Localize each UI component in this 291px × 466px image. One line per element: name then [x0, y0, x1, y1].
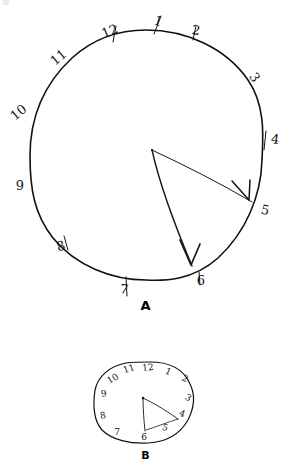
clock-a-numeral-11: 11 [47, 46, 69, 68]
clock-b-hour-hand [143, 398, 145, 431]
clock-b-numeral-2: 2 [180, 373, 190, 385]
clock-b-numeral-1: 1 [164, 366, 173, 377]
clock-b-numeral-7: 7 [114, 427, 120, 437]
clock-b-numeral-6: 6 [141, 432, 147, 442]
clock-a-hour-hand [152, 150, 200, 266]
clock-b-numeral-4: 4 [178, 408, 187, 420]
clock-a-tick-4 [264, 131, 266, 150]
clock-b-numeral-12: 12 [142, 362, 154, 373]
panel-label-b: B [0, 450, 291, 461]
clock-a-numeral-5: 5 [260, 202, 271, 218]
clock-a-numeral-2: 2 [191, 22, 202, 38]
panel-label-a: A [0, 299, 291, 312]
clock-a-minute-hand-arrowhead [232, 180, 250, 200]
clock-b-numeral-11: 11 [122, 362, 136, 375]
clock-a-numeral-6: 6 [197, 273, 205, 288]
clock-b-numeral-10: 10 [105, 371, 120, 386]
clock-figure-canvas: 12 1 2 3 4 5 6 7 8 9 10 11 [0, 0, 291, 466]
clock-a-numeral-9: 9 [16, 178, 24, 193]
clock-b-pivot-dot [142, 397, 144, 399]
clock-b-minute-hand [143, 398, 178, 419]
clock-a-pivot-dot [151, 149, 153, 151]
clock-a-numeral-3: 3 [246, 70, 263, 85]
clock-a-numeral-4: 4 [270, 131, 280, 147]
clock-a-minute-hand [152, 150, 252, 202]
clock-panel-a: 12 1 2 3 4 5 6 7 8 9 10 11 [7, 13, 280, 297]
clock-a-dial-circle [30, 30, 263, 280]
clock-a-numeral-10: 10 [7, 101, 29, 123]
clock-b-numeral-3: 3 [183, 392, 193, 404]
clock-a-numeral-1: 1 [152, 13, 165, 30]
clock-b-numeral-8: 8 [99, 410, 107, 421]
clock-panel-b: 12 11 10 9 8 7 6 5 4 3 2 1 [94, 362, 194, 443]
clock-b-numeral-9: 9 [100, 388, 108, 399]
clock-a-numeral-7: 7 [119, 281, 129, 297]
figure-root: 12 1 2 3 4 5 6 7 8 9 10 11 [0, 0, 291, 466]
